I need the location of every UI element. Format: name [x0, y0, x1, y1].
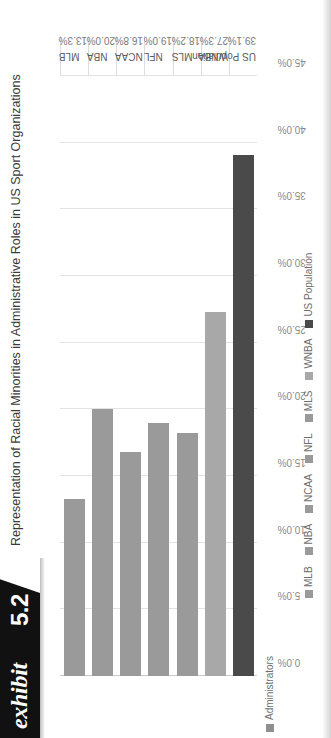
legend-label: NBA [303, 524, 314, 545]
legend-item[interactable]: MLB [303, 566, 314, 598]
chart-title: Representation of Racial Minorities in A… [9, 74, 23, 546]
bar-row [88, 76, 116, 676]
bar-row [173, 76, 201, 676]
axis-tick-label: 45.0% [278, 57, 324, 68]
legend-item[interactable]: NBA [303, 524, 314, 556]
bar-row [229, 76, 257, 676]
category-cell: MLB13.3% [60, 36, 88, 76]
axis-tick-label: 35.0% [278, 190, 324, 201]
legend-swatch-icon [266, 724, 274, 732]
category-legend: MLBNBANCAANFLMLSWNBAUS Population [303, 246, 314, 598]
bar-nba[interactable] [92, 409, 113, 676]
category-label: NCAA [115, 51, 143, 62]
bar-nfl[interactable] [148, 423, 169, 676]
series-legend: Administrators [264, 656, 275, 732]
axis-tick-label: 5.0% [278, 590, 324, 601]
bar-row [201, 76, 229, 676]
bar-ncaa[interactable] [120, 452, 141, 676]
axis-tick-label: 0.0% [278, 657, 324, 668]
category-axis-labels: MLB13.3%NBA20.0%NCAA16.8%NFL19.0%MLS18.2… [60, 36, 257, 76]
category-cell: NBA20.0% [88, 36, 116, 76]
category-cell: NFL19.0% [144, 36, 172, 76]
bar-mls[interactable] [177, 433, 198, 676]
category-value: 16.8% [115, 35, 143, 46]
legend-swatch-icon [305, 505, 313, 513]
page-edge [322, 0, 331, 738]
legend-item[interactable]: WNBA [303, 339, 314, 380]
category-value: 20.0% [87, 35, 115, 46]
banner-shadow [40, 558, 45, 738]
legend-swatch-icon [305, 320, 313, 328]
exhibit-figure: exhibit 5.2 Representation of Racial Min… [0, 0, 331, 738]
axis-tick-label: 15.0% [278, 457, 324, 468]
legend-label: US Population [303, 253, 314, 317]
legend-swatch-icon [305, 414, 313, 422]
legend-item[interactable]: NFL [303, 433, 314, 463]
legend-swatch-icon [305, 590, 313, 598]
exhibit-word: exhibit [6, 663, 33, 729]
category-cell: NCAA16.8% [116, 36, 144, 76]
bar-mlb[interactable] [64, 499, 85, 676]
category-label: US Population [228, 51, 256, 62]
category-label: NFL [143, 51, 171, 62]
bar-row [60, 76, 88, 676]
axis-tick-label: 40.0% [278, 123, 324, 134]
category-value: 13.3% [59, 35, 87, 46]
legend-item[interactable]: NCAA [303, 474, 314, 513]
axis-tick-label: 10.0% [278, 523, 324, 534]
legend-swatch-icon [305, 372, 313, 380]
bar-row [116, 76, 144, 676]
category-value: 18.2% [172, 35, 200, 46]
axis-tick-label: 30.0% [278, 257, 324, 268]
legend-item[interactable]: US Population [303, 253, 314, 328]
legend-swatch-icon [305, 547, 313, 555]
legend-item[interactable]: MLS [303, 391, 314, 423]
category-cell: US Population39.1% [229, 36, 257, 76]
exhibit-number: 5.2 [6, 594, 34, 626]
category-value: 27.3% [200, 35, 228, 46]
bar-wnba[interactable] [205, 312, 226, 676]
legend-label: NCAA [303, 474, 314, 502]
category-label: NBA [87, 51, 115, 62]
legend-label: NFL [303, 433, 314, 452]
category-value: 19.0% [143, 35, 171, 46]
category-value: 39.1% [228, 35, 256, 46]
legend-label: MLB [303, 566, 314, 587]
category-label: MLB [59, 51, 87, 62]
legend-label: WNBA [303, 339, 314, 369]
series-legend-label: Administrators [264, 656, 275, 720]
axis-tick-label: 25.0% [278, 323, 324, 334]
axis-tick-label: 20.0% [278, 390, 324, 401]
plot-area [60, 76, 257, 676]
exhibit-banner: exhibit 5.2 [0, 553, 40, 738]
legend-swatch-icon [305, 455, 313, 463]
bar-row [144, 76, 172, 676]
legend-label: MLS [303, 391, 314, 412]
bar-us-population[interactable] [233, 155, 254, 676]
